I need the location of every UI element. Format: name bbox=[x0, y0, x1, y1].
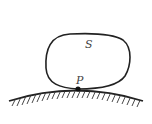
ground-hatching bbox=[12, 89, 141, 107]
diagram-svg: S P bbox=[0, 0, 152, 124]
contact-point-dot bbox=[75, 86, 80, 91]
label-p: P bbox=[75, 74, 84, 87]
label-s: S bbox=[85, 38, 93, 51]
diagram-canvas: S P bbox=[0, 0, 152, 124]
